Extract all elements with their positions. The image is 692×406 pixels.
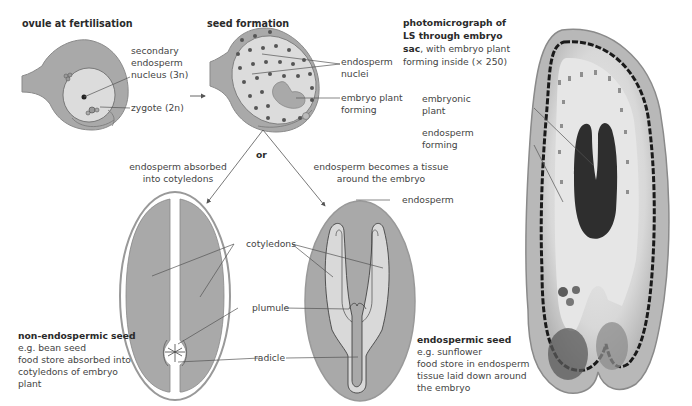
title-line: photomicrograph of	[403, 16, 510, 29]
desc-line: food store absorbed into	[18, 354, 136, 366]
desc-line: the embryo	[417, 382, 529, 394]
label-embryonic-plant: embryonic plant	[422, 93, 471, 117]
title-line-rest: , with embryo plant	[420, 43, 510, 54]
endospermic-seed-diagram	[284, 200, 415, 401]
label-line: embryo plant	[341, 92, 403, 104]
title-line-bold: sac	[403, 43, 420, 54]
label-endosperm-forming: endosperm forming	[422, 127, 474, 151]
endospermic-caption: endosperm becomes a tissue around the em…	[306, 161, 456, 185]
seed-formation-diagram	[210, 19, 340, 140]
title-line: LS through embryo	[403, 29, 510, 42]
non-endospermic-caption: endosperm absorbed into cotyledons	[118, 161, 238, 185]
label-line: secondary	[131, 45, 188, 57]
label-line: embryonic	[422, 93, 471, 105]
label-line: endosperm	[422, 127, 474, 139]
label-line: endosperm	[341, 56, 393, 68]
ovule-title: ovule at fertilisation	[22, 18, 133, 30]
label-line: nucleus (3n)	[131, 69, 188, 81]
ovule-diagram	[22, 40, 130, 130]
branch-or-label: or	[256, 149, 267, 161]
desc-line: plant	[18, 378, 136, 390]
label-plumule: plumule	[252, 302, 289, 314]
label-line: endosperm	[131, 57, 188, 69]
caption-line: into cotyledons	[118, 173, 238, 185]
photomicrograph-title: photomicrograph of LS through embryo sac…	[403, 16, 510, 68]
label-line: plant	[422, 105, 471, 117]
label-zygote: zygote (2n)	[131, 102, 184, 114]
non-endospermic-description: non-endospermic seed e.g. bean seed food…	[18, 330, 136, 390]
endospermic-description: endospermic seed e.g. sunflower food sto…	[417, 334, 529, 394]
label-embryo-plant-forming: embryo plant forming	[341, 92, 403, 116]
seed-heading: endospermic seed	[417, 334, 529, 346]
desc-line: cotyledons of embryo	[18, 366, 136, 378]
title-line: forming inside (× 250)	[403, 55, 510, 68]
label-line: forming	[422, 139, 474, 151]
label-endosperm: endosperm	[402, 194, 454, 206]
photomicrograph-image	[526, 29, 669, 393]
caption-line: around the embryo	[306, 173, 456, 185]
caption-line: endosperm absorbed	[118, 161, 238, 173]
label-cotyledons: cotyledons	[246, 238, 296, 250]
label-radicle: radicle	[254, 352, 285, 364]
seed-heading: non-endospermic seed	[18, 330, 136, 342]
label-line: forming	[341, 104, 403, 116]
desc-line: tissue laid down around	[417, 370, 529, 382]
non-endospermic-seed-diagram	[120, 192, 260, 400]
label-endosperm-nuclei: endosperm nuclei	[341, 56, 393, 80]
label-secondary-endosperm-nucleus: secondary endosperm nucleus (3n)	[131, 45, 188, 81]
seed-formation-title: seed formation	[207, 18, 289, 30]
desc-line: food store in endosperm	[417, 358, 529, 370]
caption-line: endosperm becomes a tissue	[306, 161, 456, 173]
label-line: nuclei	[341, 68, 393, 80]
desc-line: e.g. bean seed	[18, 342, 136, 354]
desc-line: e.g. sunflower	[417, 346, 529, 358]
